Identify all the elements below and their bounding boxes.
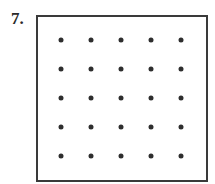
grid-dot [59, 125, 64, 130]
problem-number: 7. [11, 9, 24, 29]
grid-dot [119, 96, 124, 101]
grid-dot [119, 154, 124, 159]
grid-dot [179, 125, 184, 130]
grid-dot [179, 154, 184, 159]
grid-dot [59, 154, 64, 159]
dot-grid-box [36, 15, 208, 182]
grid-dot [149, 154, 154, 159]
grid-dot [59, 38, 64, 43]
grid-dot [119, 67, 124, 72]
grid-dot [89, 38, 94, 43]
grid-dot [149, 125, 154, 130]
grid-dot [89, 125, 94, 130]
grid-dot [89, 67, 94, 72]
grid-dot [119, 38, 124, 43]
grid-dot [179, 96, 184, 101]
grid-dot [149, 38, 154, 43]
grid-dot [59, 96, 64, 101]
grid-dot [89, 96, 94, 101]
grid-dot [59, 67, 64, 72]
grid-dot [89, 154, 94, 159]
grid-dot [149, 96, 154, 101]
grid-dot [119, 125, 124, 130]
grid-dot [149, 67, 154, 72]
grid-dot [179, 67, 184, 72]
grid-dot [179, 38, 184, 43]
